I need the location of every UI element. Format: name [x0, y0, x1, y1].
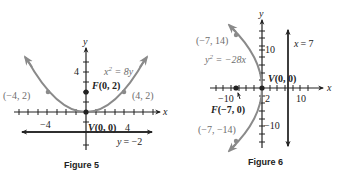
figure-6: x −10 2 10 y 10 −10 x= 7 — [196, 8, 332, 167]
fig5-vertex-point — [83, 109, 88, 114]
figures-canvas: x y 4 −4 4 y= −2 (−4, 2) (4, 2) x2 = 8y … — [0, 0, 338, 176]
fig6-x-tick-neg10: −10 — [218, 93, 234, 104]
fig5-parabola-arrow-right — [140, 57, 147, 67]
fig6-y-tick-10: 10 — [265, 44, 275, 55]
fig6-point-top-label: (−7, 14) — [196, 35, 228, 47]
fig6-focus-label: F(−7, 0) — [210, 104, 245, 116]
fig5-focus-point — [83, 89, 88, 94]
fig6-parabola-arrow-bottom — [229, 144, 236, 151]
fig5-point-left-label: (−4, 2) — [3, 90, 30, 102]
fig6-focus-point — [233, 85, 238, 90]
fig5-parabola-arrow-left — [25, 57, 32, 67]
fig6-directrix-label: x= 7 — [293, 38, 314, 49]
fig5-caption: Figure 5 — [64, 160, 99, 170]
fig6-y-tick-neg10: −10 — [264, 120, 280, 131]
fig6-vertex-label: V(0, 0) — [268, 73, 296, 85]
fig5-equation: x2 = 8y — [103, 65, 134, 77]
fig6-caption: Figure 6 — [248, 157, 283, 167]
fig6-equation: y2 = −28x — [204, 53, 246, 65]
fig5-point-right-label: (4, 2) — [132, 90, 154, 102]
fig5-point-right — [122, 90, 127, 95]
fig6-parabola-arrow-top — [229, 25, 236, 32]
fig6-focus-pointer — [238, 93, 240, 99]
fig5-x-tick-neg4: −4 — [40, 119, 51, 130]
fig6-x-axis-label: x — [326, 82, 332, 93]
fig5-point-left — [46, 90, 51, 95]
fig6-x-tick-10: 10 — [296, 93, 306, 104]
fig5-y-axis-label: y — [82, 36, 88, 47]
fig5-focus-label: F(0, 2) — [91, 80, 120, 92]
fig5-x-axis-label: x — [162, 106, 168, 117]
fig6-point-bottom-label: (−7, −14) — [198, 124, 236, 136]
fig5-directrix-label: y= −2 — [116, 136, 142, 147]
fig6-vertex-point — [259, 85, 264, 90]
fig6-x-tick-2: 2 — [265, 93, 270, 104]
fig5-y-tick-4: 4 — [74, 66, 79, 77]
figure-5: x y 4 −4 4 y= −2 (−4, 2) (4, 2) x2 = 8y … — [3, 36, 168, 170]
fig6-y-axis-label: y — [258, 8, 264, 19]
fig6-point-top — [234, 33, 238, 37]
fig6-point-bottom — [234, 139, 238, 143]
fig5-vertex-label: V(0, 0) — [88, 122, 116, 134]
